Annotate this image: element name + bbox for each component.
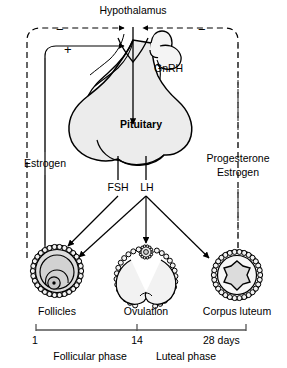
follicle-oocyte-nucleus [52, 281, 55, 284]
fsh-to-follicles-arrow [68, 196, 118, 246]
negative-sign-right: − [198, 24, 206, 36]
follicles-label: Follicles [38, 305, 76, 317]
gnrh-label: GnRH [154, 62, 183, 74]
ovulation-label: Ovulation [124, 305, 168, 317]
corpus-luteum-label: Corpus luteum [203, 305, 271, 317]
ovulation-illustration [114, 245, 178, 309]
menstrual-cycle-diagram: Hypothalamus Pituitary GnRH − + − Estrog… [0, 0, 287, 368]
corpus-luteum-illustration [211, 249, 262, 300]
ovulated-egg-nucleus [144, 250, 149, 255]
hypothalamus-label: Hypothalamus [99, 4, 166, 16]
timeline-label-day1: 1 [32, 334, 38, 346]
pituitary-label: Pituitary [120, 118, 162, 130]
negative-sign-left: − [56, 24, 64, 36]
lh-to-follicles-arrow [79, 196, 146, 257]
timeline-label-day28: 28 days [203, 334, 240, 346]
follicular-phase-label: Follicular phase [53, 350, 127, 362]
estrogen-left-label: Estrogen [24, 157, 66, 169]
pituitary-gland-illustration [69, 31, 192, 165]
estrogen-right-label: Estrogen [217, 166, 259, 178]
fsh-label: FSH [108, 181, 129, 193]
progesterone-right-label: Progesterone [206, 152, 269, 164]
cycle-timeline-axis [36, 324, 246, 331]
positive-sign-left: + [64, 44, 72, 56]
luteal-phase-label: Luteal phase [156, 350, 216, 362]
follicle-illustration [30, 244, 83, 297]
lh-label: LH [140, 181, 153, 193]
timeline-label-day14: 14 [131, 334, 143, 346]
